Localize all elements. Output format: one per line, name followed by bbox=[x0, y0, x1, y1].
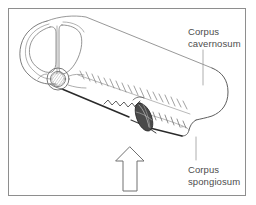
label-corpus-spongiosum-line1: Corpus bbox=[188, 164, 240, 176]
label-corpus-cavernosum-line2: cavernosum bbox=[188, 38, 241, 50]
corpus-cavernosum-left-oval bbox=[29, 27, 56, 73]
urethra-cross-section bbox=[38, 68, 86, 90]
label-corpus-spongiosum: Corpus spongiosum bbox=[188, 164, 240, 187]
corpus-cavernosum-right-oval bbox=[59, 22, 84, 74]
graft-patch bbox=[133, 97, 156, 133]
label-corpus-cavernosum: Corpus cavernosum bbox=[188, 26, 241, 49]
suture-line-superior bbox=[78, 71, 190, 114]
plication-zigzag bbox=[104, 100, 136, 108]
label-corpus-cavernosum-line1: Corpus bbox=[188, 26, 241, 38]
shaft-inferior-border bbox=[62, 89, 182, 136]
upward-pointing-arrow bbox=[116, 147, 144, 191]
label-corpus-spongiosum-line2: spongiosum bbox=[188, 176, 240, 188]
